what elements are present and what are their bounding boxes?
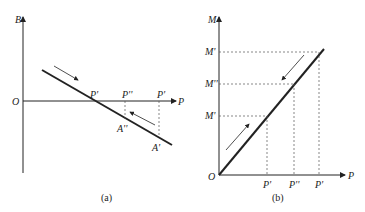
panel-a: B O P P' P'' P' A'' A' (a): [12, 14, 184, 204]
x-tick-2: P'': [288, 179, 300, 190]
zero-cross-label: P': [89, 89, 99, 100]
origin-label: O: [208, 171, 215, 182]
direction-arrow-up: [226, 124, 249, 150]
x-tick-3: P': [314, 179, 324, 190]
b-p-line: [42, 70, 172, 145]
p-double-label: P'': [121, 89, 133, 100]
x-axis-label: P: [347, 170, 354, 181]
p-prime-label: P': [156, 89, 166, 100]
diagram-canvas: B O P P' P'' P' A'' A' (a) M O P M' M'' …: [0, 0, 365, 212]
y-tick-2: M'': [204, 78, 218, 89]
x-axis-label: P: [177, 96, 184, 107]
m-p-line: [219, 49, 324, 175]
y-tick-1: M': [204, 46, 216, 57]
y-axis-label: M: [207, 14, 217, 25]
origin-label: O: [12, 96, 19, 107]
a-prime-label: A': [151, 142, 161, 153]
panel-b: M O P M' M'' M' P' P'' P' (b): [204, 14, 354, 204]
y-axis-label: B: [15, 14, 21, 25]
caption-a: (a): [101, 192, 112, 204]
a-double-label: A'': [116, 123, 128, 134]
y-tick-3: M': [204, 110, 216, 121]
caption-b: (b): [272, 192, 284, 204]
x-tick-1: P': [262, 179, 272, 190]
